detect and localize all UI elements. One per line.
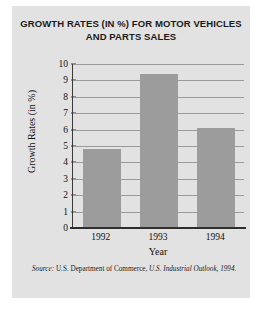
chart-title-line-2: AND PARTS SALES [20, 31, 242, 44]
y-axis-tick-label: 1 [52, 207, 68, 217]
y-axis-tick-label: 0 [52, 223, 68, 233]
bar-slot [140, 64, 178, 228]
source-label: Source: [32, 265, 54, 273]
x-axis-line [70, 227, 246, 229]
bar [140, 74, 178, 228]
source-note: Source: U.S. Department of Commerce, U.S… [32, 264, 240, 274]
figure-panel: GROWTH RATES (IN %) FOR MOTOR VEHICLES A… [12, 6, 250, 298]
x-axis-title: Year [72, 246, 244, 257]
y-axis-tick-label: 4 [52, 157, 68, 167]
source-publication: U.S. Industrial Outlook, 1994. [149, 265, 236, 273]
y-axis-tick-label: 10 [52, 59, 68, 69]
y-axis-tick-label: 6 [52, 125, 68, 135]
bar-slot [83, 64, 121, 228]
chart-title-line-1: GROWTH RATES (IN %) FOR MOTOR VEHICLES [20, 18, 242, 31]
bar-series [73, 64, 244, 228]
bar-slot [197, 64, 235, 228]
x-axis-tick-label: 1992 [73, 232, 129, 242]
source-body: U.S. Department of Commerce, [54, 265, 149, 273]
y-axis-tick-label: 5 [52, 141, 68, 151]
plot-area [72, 64, 244, 228]
y-axis-tick-label: 9 [52, 75, 68, 85]
bar [197, 128, 235, 228]
x-axis-tick-label: 1993 [130, 232, 186, 242]
bar [83, 149, 121, 228]
y-axis-tick-label: 8 [52, 92, 68, 102]
y-axis-tick-label: 2 [52, 190, 68, 200]
plot-block: Growth Rates (in %) 012345678910 1992199… [12, 64, 250, 244]
y-axis-tick-labels: 012345678910 [52, 64, 68, 228]
x-axis-tick-label: 1994 [187, 232, 243, 242]
y-axis-tick-label: 3 [52, 174, 68, 184]
y-axis-tick-label: 7 [52, 108, 68, 118]
y-axis-title: Growth Rates (in %) [26, 77, 37, 187]
x-axis-tick-labels: 199219931994 [72, 232, 244, 246]
chart-title: GROWTH RATES (IN %) FOR MOTOR VEHICLES A… [20, 18, 242, 43]
